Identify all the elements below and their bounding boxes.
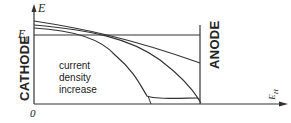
y-axis-arrow-icon — [32, 4, 37, 12]
x-axis-arrow-icon — [279, 102, 288, 107]
diagram-graphics — [0, 0, 291, 123]
anode-label: ANODE — [207, 21, 222, 69]
cathode-label: CATHODE — [17, 36, 32, 101]
annotation-line-1: current — [59, 60, 97, 72]
annotation-line-3: increase — [59, 84, 97, 96]
x-axis-label-prefix: E — [267, 94, 277, 100]
origin-label: 0 — [30, 107, 36, 119]
potential-distribution-diagram: E Et 0 EH CATHODE ANODE current density … — [0, 0, 291, 123]
annotation-line-2: density — [59, 72, 97, 84]
y-axis-label: E — [38, 1, 45, 16]
current-density-annotation: current density increase — [59, 60, 97, 96]
x-axis-label-subscript: H — [272, 89, 280, 94]
x-axis-label: EH — [267, 89, 280, 100]
